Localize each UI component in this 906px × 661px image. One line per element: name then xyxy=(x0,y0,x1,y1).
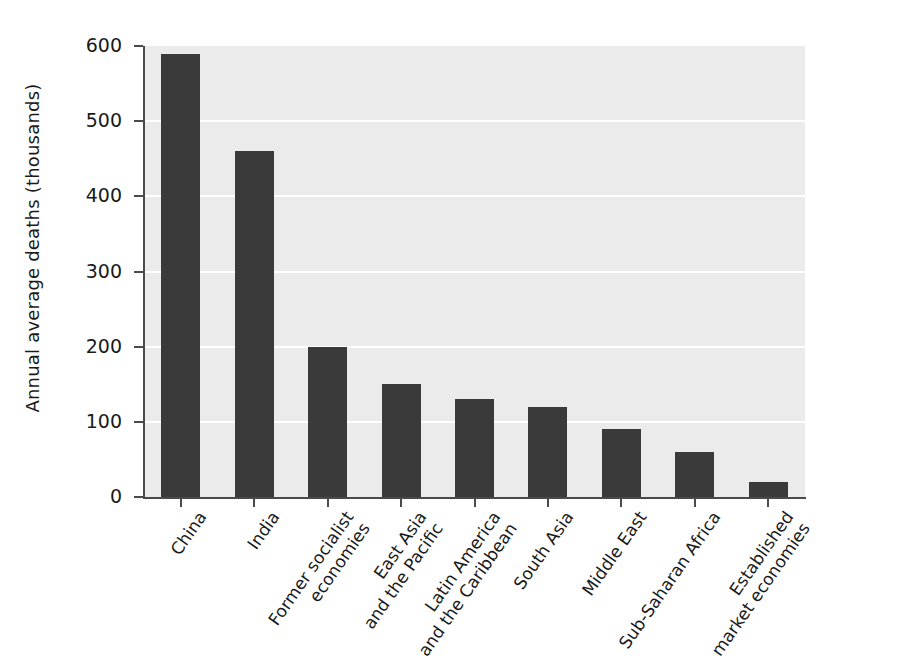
bar xyxy=(749,482,788,497)
y-tick-label: 400 xyxy=(62,184,122,206)
y-tick-label-wrap: 500 xyxy=(60,109,122,129)
y-tick-label: 500 xyxy=(62,109,122,131)
bar xyxy=(308,347,347,497)
y-tick-mark xyxy=(134,45,143,47)
x-tick-label: South Asia xyxy=(510,508,578,593)
y-tick-label: 100 xyxy=(62,410,122,432)
x-tick-label: China xyxy=(167,508,211,559)
x-tick-label-line1: Middle East xyxy=(578,507,651,599)
bar-chart-figure: Annual average deaths (thousands) 010020… xyxy=(0,0,906,661)
y-tick-mark xyxy=(134,271,143,273)
y-tick-mark xyxy=(134,195,143,197)
y-tick-label-wrap: 400 xyxy=(60,184,122,204)
x-tick-mark xyxy=(400,499,402,507)
y-tick-mark xyxy=(134,496,143,498)
x-tick-label: India xyxy=(244,508,284,553)
bar xyxy=(235,151,274,497)
y-axis-line xyxy=(143,46,145,498)
y-tick-label-wrap: 600 xyxy=(60,34,122,54)
y-tick-label-wrap: 0 xyxy=(60,485,122,505)
bar xyxy=(455,399,494,497)
plot-area xyxy=(144,46,805,497)
x-tick-mark xyxy=(620,499,622,507)
y-tick-label: 200 xyxy=(62,335,122,357)
x-tick-mark xyxy=(474,499,476,507)
x-tick-mark xyxy=(253,499,255,507)
gridline xyxy=(144,120,805,122)
y-tick-mark xyxy=(134,346,143,348)
y-tick-label-wrap: 100 xyxy=(60,410,122,430)
bar xyxy=(528,407,567,497)
bar xyxy=(675,452,714,497)
x-tick-label: Middle East xyxy=(579,508,652,600)
x-tick-mark xyxy=(180,499,182,507)
y-tick-label: 300 xyxy=(62,260,122,282)
y-tick-mark xyxy=(134,421,143,423)
y-tick-label: 0 xyxy=(62,485,122,507)
y-axis-title: Annual average deaths (thousands) xyxy=(22,113,43,413)
x-tick-label-line1: India xyxy=(243,507,283,553)
x-tick-mark xyxy=(547,499,549,507)
x-tick-mark xyxy=(327,499,329,507)
x-tick-mark xyxy=(767,499,769,507)
bar xyxy=(602,429,641,497)
x-tick-label-line1: South Asia xyxy=(509,507,577,593)
x-tick-mark xyxy=(694,499,696,507)
bar xyxy=(382,384,421,497)
x-tick-label-line1: China xyxy=(166,507,210,558)
y-tick-label-wrap: 300 xyxy=(60,260,122,280)
y-tick-mark xyxy=(134,120,143,122)
y-tick-label: 600 xyxy=(62,34,122,56)
y-tick-label-wrap: 200 xyxy=(60,335,122,355)
bar xyxy=(161,54,200,497)
x-tick-label: Former socialisteconomies xyxy=(265,508,374,641)
